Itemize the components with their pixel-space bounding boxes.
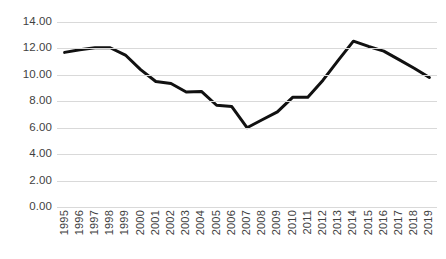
gridline: [57, 154, 437, 155]
x-tick-label: 2006: [225, 210, 239, 235]
x-tick-label: 2007: [240, 210, 254, 235]
gridline: [57, 181, 437, 182]
gridline: [57, 75, 437, 76]
gridline: [57, 207, 437, 208]
y-tick-label: 6.00: [0, 122, 52, 133]
x-tick-label: 2014: [346, 210, 360, 235]
x-tick-label: 2001: [149, 210, 163, 235]
x-tick-label: 2019: [422, 210, 436, 235]
x-tick-label: 2018: [407, 210, 421, 235]
x-tick-label: 2000: [134, 210, 148, 235]
line-chart: 0.002.004.006.008.0010.0012.0014.00 1995…: [0, 0, 446, 259]
x-tick-label: 2015: [362, 210, 376, 235]
x-tick-label: 2002: [164, 210, 178, 235]
x-tick-label: 2016: [377, 210, 391, 235]
x-tick-label: 1997: [88, 210, 102, 235]
y-axis: 0.002.004.006.008.0010.0012.0014.00: [0, 0, 52, 259]
x-axis: 1995199619971998199920002001200220032004…: [57, 210, 437, 259]
y-tick-label: 4.00: [0, 148, 52, 159]
x-tick-label: 1998: [103, 210, 117, 235]
x-tick-label: 2011: [301, 210, 315, 234]
y-tick-label: 14.00: [0, 16, 52, 27]
x-tick-label: 2017: [392, 210, 406, 235]
x-tick-label: 1999: [118, 210, 132, 235]
gridline: [57, 101, 437, 102]
series-line: [65, 41, 430, 128]
x-tick-label: 2013: [331, 210, 345, 235]
x-tick-label: 1995: [58, 210, 72, 235]
gridline: [57, 22, 437, 23]
x-tick-label: 2005: [210, 210, 224, 235]
y-tick-label: 2.00: [0, 175, 52, 186]
gridline: [57, 128, 437, 129]
gridline: [57, 48, 437, 49]
y-tick-label: 8.00: [0, 95, 52, 106]
y-tick-label: 10.00: [0, 69, 52, 80]
plot-area: [57, 22, 437, 207]
series-line-group: [57, 22, 437, 207]
x-tick-label: 2010: [286, 210, 300, 235]
x-tick-label: 1996: [73, 210, 87, 235]
x-tick-label: 2012: [316, 210, 330, 235]
x-tick-label: 2004: [194, 210, 208, 235]
x-tick-label: 2009: [270, 210, 284, 235]
y-tick-label: 0.00: [0, 201, 52, 212]
y-tick-label: 12.00: [0, 42, 52, 53]
x-tick-label: 2008: [255, 210, 269, 235]
x-tick-label: 2003: [179, 210, 193, 235]
